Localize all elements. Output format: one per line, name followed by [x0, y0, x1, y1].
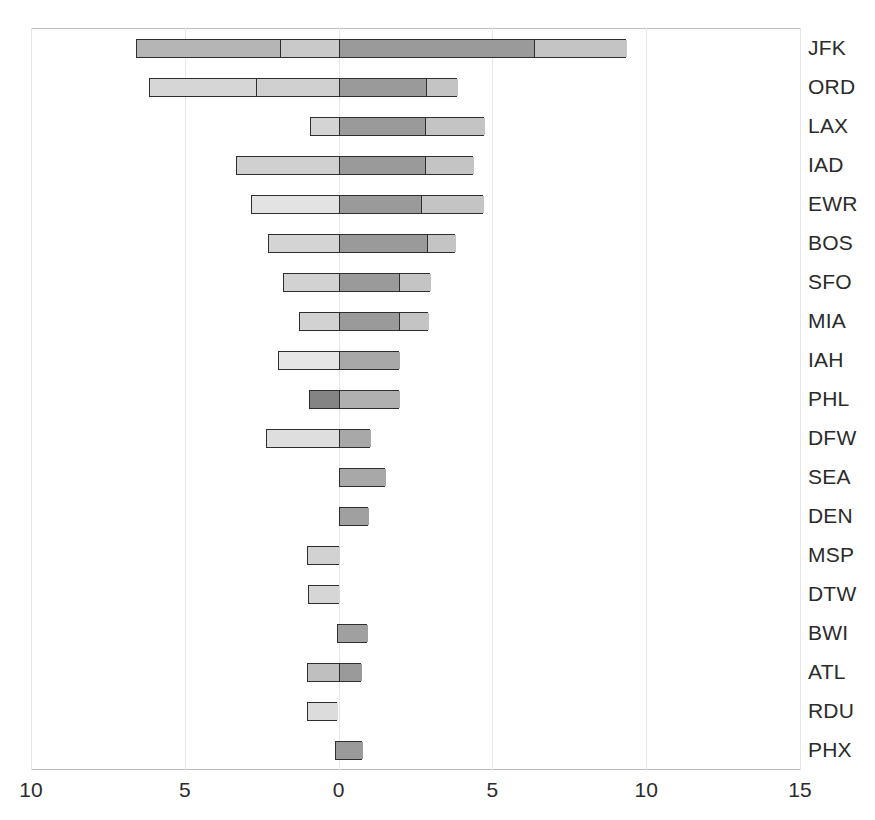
- bar-row[interactable]: [0, 381, 875, 417]
- bar-segment[interactable]: [336, 742, 363, 759]
- stacked-bar-dtw[interactable]: [308, 585, 339, 604]
- bar-segment[interactable]: [340, 508, 369, 525]
- bar-row[interactable]: [0, 303, 875, 339]
- bar-segment[interactable]: [310, 391, 340, 408]
- category-label-sea: SEA: [808, 459, 851, 495]
- category-label-iad: IAD: [808, 147, 844, 183]
- bar-row[interactable]: [0, 108, 875, 144]
- category-label-lax: LAX: [808, 108, 848, 144]
- bar-segment[interactable]: [340, 196, 422, 213]
- bar-row[interactable]: [0, 30, 875, 66]
- bar-row[interactable]: [0, 147, 875, 183]
- stacked-bar-mia[interactable]: [299, 312, 428, 331]
- bar-segment[interactable]: [535, 40, 627, 57]
- bar-row[interactable]: [0, 654, 875, 690]
- stacked-bar-msp[interactable]: [307, 546, 339, 565]
- bar-segment[interactable]: [338, 625, 368, 642]
- bar-segment[interactable]: [281, 40, 339, 57]
- stacked-bar-phl[interactable]: [309, 390, 399, 409]
- bar-segment[interactable]: [426, 118, 485, 135]
- bar-segment[interactable]: [340, 391, 400, 408]
- stacked-bar-jfk[interactable]: [136, 39, 626, 58]
- bar-segment[interactable]: [308, 547, 340, 564]
- bar-row[interactable]: [0, 69, 875, 105]
- bar-segment[interactable]: [279, 352, 340, 369]
- bar-segment[interactable]: [237, 157, 339, 174]
- stacked-bar-iad[interactable]: [236, 156, 473, 175]
- bar-segment[interactable]: [340, 313, 400, 330]
- stacked-bar-den[interactable]: [339, 507, 368, 526]
- stacked-bar-atl[interactable]: [307, 663, 361, 682]
- stacked-bar-bos[interactable]: [268, 234, 455, 253]
- bar-segment[interactable]: [340, 157, 426, 174]
- stacked-bar-rdu[interactable]: [307, 702, 337, 721]
- bar-segment[interactable]: [311, 118, 340, 135]
- bar-row[interactable]: [0, 459, 875, 495]
- bar-segment[interactable]: [284, 274, 340, 291]
- bar-row[interactable]: [0, 732, 875, 768]
- stacked-bar-phx[interactable]: [335, 741, 362, 760]
- category-label-atl: ATL: [808, 654, 846, 690]
- category-label-msp: MSP: [808, 537, 854, 573]
- bar-segment[interactable]: [300, 313, 340, 330]
- bar-segment[interactable]: [269, 235, 340, 252]
- bar-segment[interactable]: [340, 118, 426, 135]
- stacked-bar-bwi[interactable]: [337, 624, 367, 643]
- category-label-bwi: BWI: [808, 615, 848, 651]
- category-label-jfk: JFK: [808, 30, 846, 66]
- bar-segment[interactable]: [340, 469, 386, 486]
- bar-row[interactable]: [0, 615, 875, 651]
- category-label-bos: BOS: [808, 225, 853, 261]
- bar-segment[interactable]: [309, 586, 340, 603]
- bar-row[interactable]: [0, 225, 875, 261]
- bar-row[interactable]: [0, 498, 875, 534]
- bar-segment[interactable]: [340, 664, 362, 681]
- bar-segment[interactable]: [257, 79, 340, 96]
- bar-segment[interactable]: [308, 664, 340, 681]
- bar-row[interactable]: [0, 264, 875, 300]
- x-tick-3: 5: [487, 778, 499, 802]
- category-label-sfo: SFO: [808, 264, 852, 300]
- stacked-bar-sea[interactable]: [339, 468, 385, 487]
- category-label-dtw: DTW: [808, 576, 856, 612]
- bar-segment[interactable]: [340, 79, 427, 96]
- bar-segment[interactable]: [137, 40, 282, 57]
- category-label-phx: PHX: [808, 732, 852, 768]
- x-tick-4: 10: [635, 778, 658, 802]
- bar-segment[interactable]: [426, 157, 474, 174]
- bar-segment[interactable]: [150, 79, 256, 96]
- stacked-bar-lax[interactable]: [310, 117, 484, 136]
- stacked-bar-sfo[interactable]: [283, 273, 430, 292]
- category-label-mia: MIA: [808, 303, 846, 339]
- bar-segment[interactable]: [427, 79, 458, 96]
- bar-segment[interactable]: [267, 430, 340, 447]
- x-tick-0: 10: [19, 778, 42, 802]
- stacked-bar-dfw[interactable]: [266, 429, 370, 448]
- stacked-bar-ord[interactable]: [149, 78, 457, 97]
- stacked-bar-ewr[interactable]: [251, 195, 483, 214]
- x-tick-2: 0: [333, 778, 345, 802]
- bar-segment[interactable]: [252, 196, 340, 213]
- bar-segment[interactable]: [340, 430, 371, 447]
- bar-segment[interactable]: [340, 274, 400, 291]
- bar-row[interactable]: [0, 186, 875, 222]
- category-label-ewr: EWR: [808, 186, 858, 222]
- bar-row[interactable]: [0, 420, 875, 456]
- bar-row[interactable]: [0, 537, 875, 573]
- bar-segment[interactable]: [340, 352, 400, 369]
- chart-root: JFKORDLAXIADEWRBOSSFOMIAIAHPHLDFWSEADENM…: [0, 0, 875, 820]
- bar-segment[interactable]: [400, 274, 431, 291]
- bar-row[interactable]: [0, 576, 875, 612]
- bar-row[interactable]: [0, 693, 875, 729]
- bar-row[interactable]: [0, 342, 875, 378]
- category-label-den: DEN: [808, 498, 853, 534]
- bar-segment[interactable]: [422, 196, 484, 213]
- category-label-dfw: DFW: [808, 420, 856, 456]
- bar-segment[interactable]: [400, 313, 430, 330]
- bar-segment[interactable]: [428, 235, 456, 252]
- bar-segment[interactable]: [308, 703, 338, 720]
- bar-segment[interactable]: [340, 40, 535, 57]
- bar-segment[interactable]: [340, 235, 428, 252]
- category-label-ord: ORD: [808, 69, 855, 105]
- stacked-bar-iah[interactable]: [278, 351, 399, 370]
